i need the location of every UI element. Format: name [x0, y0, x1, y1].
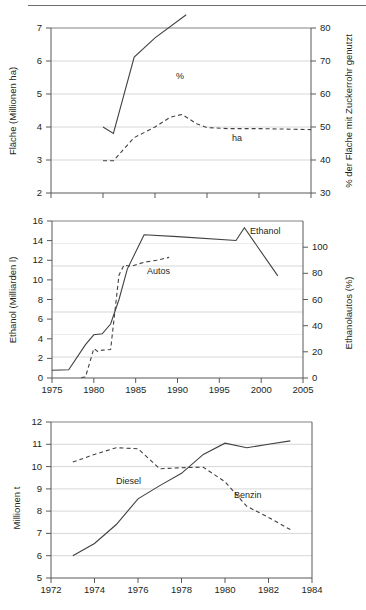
chart-2-ytick-3: 6 — [38, 313, 43, 324]
chart-1-y2tick-3: 60 — [320, 88, 331, 99]
chart-1-label-ha: ha — [232, 133, 242, 143]
chart-3-label-benzin: Benzin — [234, 490, 262, 500]
chart-2-xtick-6: 2005 — [292, 384, 313, 395]
chart-2-y2tick-1: 20 — [312, 346, 323, 357]
chart-3-xtick-6: 1984 — [301, 584, 322, 595]
chart-3-label-diesel: Diesel — [116, 476, 141, 486]
chart-1-y2tick-4: 70 — [320, 55, 331, 66]
chart-2-ytick-1: 2 — [38, 352, 43, 363]
chart-2-ytick-6: 12 — [32, 254, 43, 265]
chart-3-xtick-5: 1982 — [258, 584, 279, 595]
chart-1-xtick-1: 1980 — [92, 199, 113, 200]
chart-2-y2tick-0: 0 — [312, 372, 317, 383]
chart-1-ytick-4: 6 — [37, 55, 42, 66]
chart-1-xtick-2: 1985 — [144, 199, 165, 200]
chart-3-xtick-3: 1978 — [171, 584, 192, 595]
chart-1-axes — [46, 28, 316, 198]
chart-3-xtick-0: 1972 — [40, 584, 61, 595]
chart-2-xtick-5: 2000 — [251, 384, 272, 395]
chart-1-xtick-3: 1990 — [196, 199, 217, 200]
chart-ethanol-autos: 0 2 4 6 8 10 12 14 16 0 20 40 60 80 100 … — [0, 208, 366, 400]
chart-1-ylabel: Fläche (Millionen ha) — [7, 67, 18, 155]
chart-3-axes — [46, 422, 312, 583]
chart-2-svg: 0 2 4 6 8 10 12 14 16 0 20 40 60 80 100 … — [0, 208, 366, 400]
chart-2-xtick-1: 1980 — [83, 384, 104, 395]
chart-2-axes — [47, 221, 308, 383]
chart-2-xtick-4: 1995 — [209, 384, 230, 395]
chart-2-y2tick-5: 100 — [312, 241, 328, 252]
chart-2-ytick-0: 0 — [38, 372, 43, 383]
chart-2-y2label: Ethanolautos (%) — [343, 277, 354, 350]
chart-2-xtick-2: 1985 — [125, 384, 146, 395]
chart-2-label-autos: Autos — [147, 266, 171, 276]
chart-1-y2label: % der Fläche mit Zuckerrohr genutzt — [343, 34, 354, 188]
chart-1-y2tick-0: 30 — [320, 187, 331, 198]
chart-2-y2tick-2: 40 — [312, 320, 323, 331]
chart-1-grid — [51, 28, 311, 160]
chart-3-ytick-5: 10 — [31, 461, 42, 472]
chart-2-ytick-5: 10 — [32, 274, 43, 285]
chart-1-ytick-2: 4 — [37, 121, 42, 132]
chart-1-xtick-4: 1995 — [248, 199, 269, 200]
chart-1-y2tick-2: 50 — [320, 121, 331, 132]
chart-1-series-ha — [103, 115, 311, 161]
chart-3-ytick-0: 5 — [37, 572, 42, 583]
chart-3-xtick-4: 1980 — [214, 584, 235, 595]
chart-2-series-ethanol — [52, 228, 278, 370]
chart-3-svg: 5 6 7 8 9 10 11 12 1972 1974 1976 1978 1… — [0, 408, 366, 608]
chart-1-xtick-5: 2000 — [300, 199, 321, 200]
chart-1-ytick-3: 5 — [37, 88, 42, 99]
chart-1-y2tick-5: 80 — [320, 22, 331, 33]
chart-3-xtick-1: 1974 — [84, 584, 105, 595]
chart-2-label-ethanol: Ethanol — [250, 226, 281, 236]
chart-3-ytick-3: 8 — [37, 505, 42, 516]
chart-2-ytick-4: 8 — [38, 294, 43, 305]
chart-1-series-prozent — [103, 15, 186, 134]
chart-3-ytick-4: 9 — [37, 483, 42, 494]
chart-2-xtick-3: 1990 — [167, 384, 188, 395]
chart-2-ytick-7: 14 — [32, 235, 43, 246]
chart-2-y2tick-3: 60 — [312, 294, 323, 305]
chart-2-y2tick-4: 80 — [312, 267, 323, 278]
chart-2-grid — [52, 221, 303, 357]
chart-flaeche-prozent: 2 3 4 5 6 7 30 40 50 60 70 80 1975 1980 … — [0, 8, 366, 200]
chart-diesel-benzin: 5 6 7 8 9 10 11 12 1972 1974 1976 1978 1… — [0, 408, 366, 608]
header-rule — [28, 5, 366, 6]
figure-page: 2 3 4 5 6 7 30 40 50 60 70 80 1975 1980 … — [0, 0, 366, 610]
chart-1-y2tick-1: 40 — [320, 154, 331, 165]
chart-3-ytick-6: 11 — [32, 438, 42, 449]
chart-1-svg: 2 3 4 5 6 7 30 40 50 60 70 80 1975 1980 … — [0, 8, 366, 200]
chart-1-label-prozent: % — [176, 71, 184, 81]
chart-2-ytick-8: 16 — [32, 215, 43, 226]
chart-3-ylabel: Millionen t — [11, 486, 22, 529]
chart-3-ytick-1: 6 — [37, 550, 42, 561]
chart-2-xtick-0: 1975 — [41, 384, 62, 395]
chart-2-ytick-2: 4 — [38, 333, 43, 344]
chart-1-xtick-0: 1975 — [40, 199, 61, 200]
chart-2-ylabel: Ethanol (Milliarden l) — [7, 257, 18, 344]
chart-3-grid — [51, 422, 312, 556]
chart-1-ytick-0: 2 — [37, 187, 42, 198]
chart-1-ytick-1: 3 — [37, 154, 42, 165]
chart-3-ytick-7: 12 — [31, 416, 42, 427]
chart-3-ytick-2: 7 — [37, 527, 42, 538]
chart-1-ytick-5: 7 — [37, 22, 42, 33]
chart-3-xtick-2: 1976 — [127, 584, 148, 595]
